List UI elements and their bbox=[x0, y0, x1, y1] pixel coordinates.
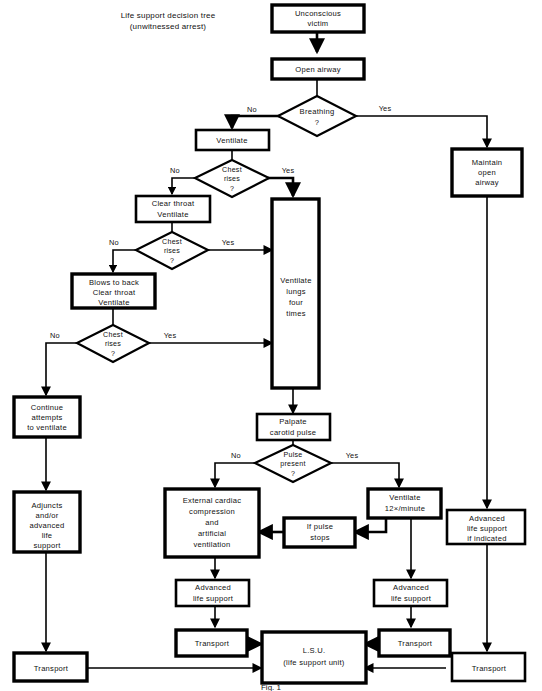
node-chest-rises-2-line-3: ? bbox=[170, 257, 174, 265]
node-adjuncts-line-5: support bbox=[33, 541, 61, 550]
node-chest-rises-1-decision[interactable]: Chest rises ? bbox=[195, 160, 269, 197]
edge-breathing-yes-to-maintain-airway bbox=[355, 116, 487, 147]
node-if-pulse-stops-line-2: stops bbox=[310, 533, 329, 542]
node-lsu[interactable]: L.S.U. (life support unit) bbox=[262, 632, 366, 683]
node-transport-mid-left[interactable]: Transport bbox=[176, 630, 247, 656]
node-transport-far-right[interactable]: Transport bbox=[452, 653, 525, 681]
node-ventilate-lungs-line-1: Ventilate bbox=[280, 276, 311, 285]
diagram-title: Life support decision tree (unwitnessed … bbox=[121, 11, 216, 31]
edge-label-chest-rises-1-yes: Yes bbox=[282, 166, 295, 175]
node-palpate-line-1: Palpate bbox=[279, 417, 307, 426]
node-chest-rises-2-decision[interactable]: Chest rises ? bbox=[136, 232, 208, 269]
node-breathing-decision-line-2: ? bbox=[315, 118, 319, 127]
edge-label-chest-rises-3-yes: Yes bbox=[164, 331, 177, 340]
node-blows-to-back-line-3: Ventilate bbox=[98, 298, 129, 307]
node-palpate-carotid-pulse[interactable]: Palpate carotid pulse bbox=[257, 414, 330, 440]
node-continue-attempts-line-1: Continue bbox=[31, 403, 63, 412]
node-external-cardiac-line-1: External cardiac bbox=[183, 496, 241, 505]
node-external-cardiac-line-5: ventilation bbox=[194, 540, 231, 549]
edge-label-pulse-yes: Yes bbox=[346, 451, 359, 460]
node-chest-rises-2-line-1: Chest bbox=[162, 238, 182, 246]
node-als-left-line-1: Advanced bbox=[195, 583, 231, 592]
node-als-left-line-2: life support bbox=[193, 594, 234, 603]
node-open-airway[interactable]: Open airway bbox=[272, 59, 364, 79]
node-lsu-line-1: L.S.U. bbox=[303, 646, 326, 655]
edge-label-breathing-yes: Yes bbox=[379, 104, 392, 113]
node-external-cardiac-compression[interactable]: External cardiac compression and artific… bbox=[165, 489, 259, 557]
edge-pulse-yes-to-ventilate-12 bbox=[330, 463, 399, 487]
node-blows-to-back[interactable]: Blows to back Clear throat Ventilate bbox=[72, 274, 155, 308]
node-advanced-life-support-right[interactable]: Advanced life support bbox=[374, 580, 447, 606]
node-external-cardiac-line-4: artificial bbox=[198, 529, 226, 538]
edge-label-chest-rises-2-no: No bbox=[109, 238, 119, 247]
node-als-if-indicated-line-3: if indicated bbox=[467, 534, 506, 543]
edge-label-chest-rises-1-no: No bbox=[170, 166, 180, 175]
node-ventilate-1-label: Ventilate bbox=[216, 136, 247, 145]
node-continue-attempts[interactable]: Continue attempts to ventilate bbox=[14, 397, 80, 437]
node-ventilate-lungs-four-times[interactable]: Ventilate lungs four times bbox=[272, 199, 319, 388]
edge-label-chest-rises-2-yes: Yes bbox=[222, 238, 235, 247]
node-pulse-present-line-1: Pulse bbox=[284, 451, 303, 459]
node-open-airway-label: Open airway bbox=[295, 65, 340, 74]
edge-chest-rises-2-no-to-blows-to-back bbox=[113, 250, 138, 272]
node-breathing-decision-diamond[interactable] bbox=[278, 96, 356, 136]
node-maintain-open-airway-line-2: open bbox=[478, 168, 496, 177]
node-unconscious-victim-line-1: Unconscious bbox=[295, 9, 341, 18]
edge-chest-rises-1-no-to-clear-throat bbox=[172, 178, 196, 194]
node-chest-rises-3-decision[interactable]: Chest rises ? bbox=[77, 325, 149, 362]
edge-label-pulse-no: No bbox=[231, 451, 241, 460]
node-maintain-open-airway-line-1: Maintain bbox=[472, 158, 503, 167]
node-advanced-life-support-left[interactable]: Advanced life support bbox=[176, 580, 249, 606]
node-als-if-indicated-line-1: Advanced bbox=[469, 514, 505, 523]
diagram-title-line-1: Life support decision tree bbox=[121, 11, 216, 20]
node-pulse-present-line-3: ? bbox=[291, 470, 295, 478]
node-chest-rises-1-line-3: ? bbox=[230, 185, 234, 193]
node-blows-to-back-line-1: Blows to back bbox=[89, 278, 139, 287]
node-breathing-decision[interactable]: Breathing ? bbox=[278, 96, 356, 136]
node-continue-attempts-line-3: to ventilate bbox=[27, 423, 67, 432]
node-ventilate-1[interactable]: Ventilate bbox=[196, 130, 269, 150]
node-ventilate-12-line-2: 12×/minute bbox=[385, 504, 425, 513]
node-advanced-life-support-if-indicated[interactable]: Advanced life support if indicated bbox=[447, 510, 525, 544]
node-als-right-line-2: life support bbox=[391, 594, 432, 603]
node-ventilate-12-per-minute[interactable]: Ventilate 12×/minute bbox=[368, 489, 441, 518]
node-clear-throat-line-2: Ventilate bbox=[157, 210, 188, 219]
node-transport-far-left[interactable]: Transport bbox=[14, 653, 87, 681]
node-transport-mid-right[interactable]: Transport bbox=[379, 630, 450, 656]
node-unconscious-victim[interactable]: Unconscious victim bbox=[272, 5, 364, 32]
node-als-right-line-1: Advanced bbox=[393, 583, 429, 592]
node-adjuncts-advanced-life-support[interactable]: Adjuncts and/or advanced life support bbox=[14, 492, 80, 552]
node-chest-rises-3-line-3: ? bbox=[111, 350, 115, 358]
edge-breathing-no-to-ventilate bbox=[232, 116, 280, 128]
node-adjuncts-line-4: life bbox=[42, 531, 53, 540]
node-blows-to-back-line-2: Clear throat bbox=[93, 288, 136, 297]
node-adjuncts-line-2: and/or bbox=[35, 511, 58, 520]
node-als-if-indicated-line-2: life support bbox=[467, 524, 508, 533]
node-maintain-open-airway-line-3: airway bbox=[475, 178, 498, 187]
node-ventilate-lungs-line-3: four bbox=[289, 298, 303, 307]
diagram-title-line-2: (unwitnessed arrest) bbox=[130, 22, 207, 31]
node-ventilate-lungs-line-4: times bbox=[286, 309, 305, 318]
node-ventilate-lungs-line-2: lungs bbox=[286, 287, 305, 296]
node-external-cardiac-line-3: and bbox=[205, 518, 218, 527]
node-clear-throat-ventilate[interactable]: Clear throat Ventilate bbox=[136, 196, 210, 222]
edge-label-chest-rises-3-no: No bbox=[50, 331, 60, 340]
node-chest-rises-3-line-1: Chest bbox=[103, 331, 123, 339]
flowchart-canvas: Life support decision tree (unwitnessed … bbox=[0, 0, 542, 691]
node-external-cardiac-line-2: compression bbox=[189, 507, 235, 516]
node-chest-rises-2-line-2: rises bbox=[164, 247, 180, 255]
node-ventilate-12-line-1: Ventilate bbox=[389, 493, 420, 502]
node-pulse-present-decision[interactable]: Pulse present ? bbox=[255, 445, 331, 482]
node-continue-attempts-line-2: attempts bbox=[31, 413, 62, 422]
node-palpate-line-2: carotid pulse bbox=[270, 428, 316, 437]
node-clear-throat-line-1: Clear throat bbox=[152, 199, 195, 208]
node-adjuncts-line-3: advanced bbox=[30, 521, 65, 530]
node-transport-far-right-label: Transport bbox=[472, 664, 507, 673]
edge-label-breathing-no: No bbox=[247, 105, 257, 114]
edge-chest-rises-3-no-to-continue-attempts bbox=[46, 343, 78, 395]
node-if-pulse-stops-line-1: If pulse bbox=[307, 522, 333, 531]
node-breathing-decision-line-1: Breathing bbox=[300, 107, 335, 116]
node-maintain-open-airway[interactable]: Maintain open airway bbox=[452, 149, 522, 196]
node-lsu-line-2: (life support unit) bbox=[283, 658, 345, 667]
node-if-pulse-stops[interactable]: If pulse stops bbox=[284, 518, 355, 547]
